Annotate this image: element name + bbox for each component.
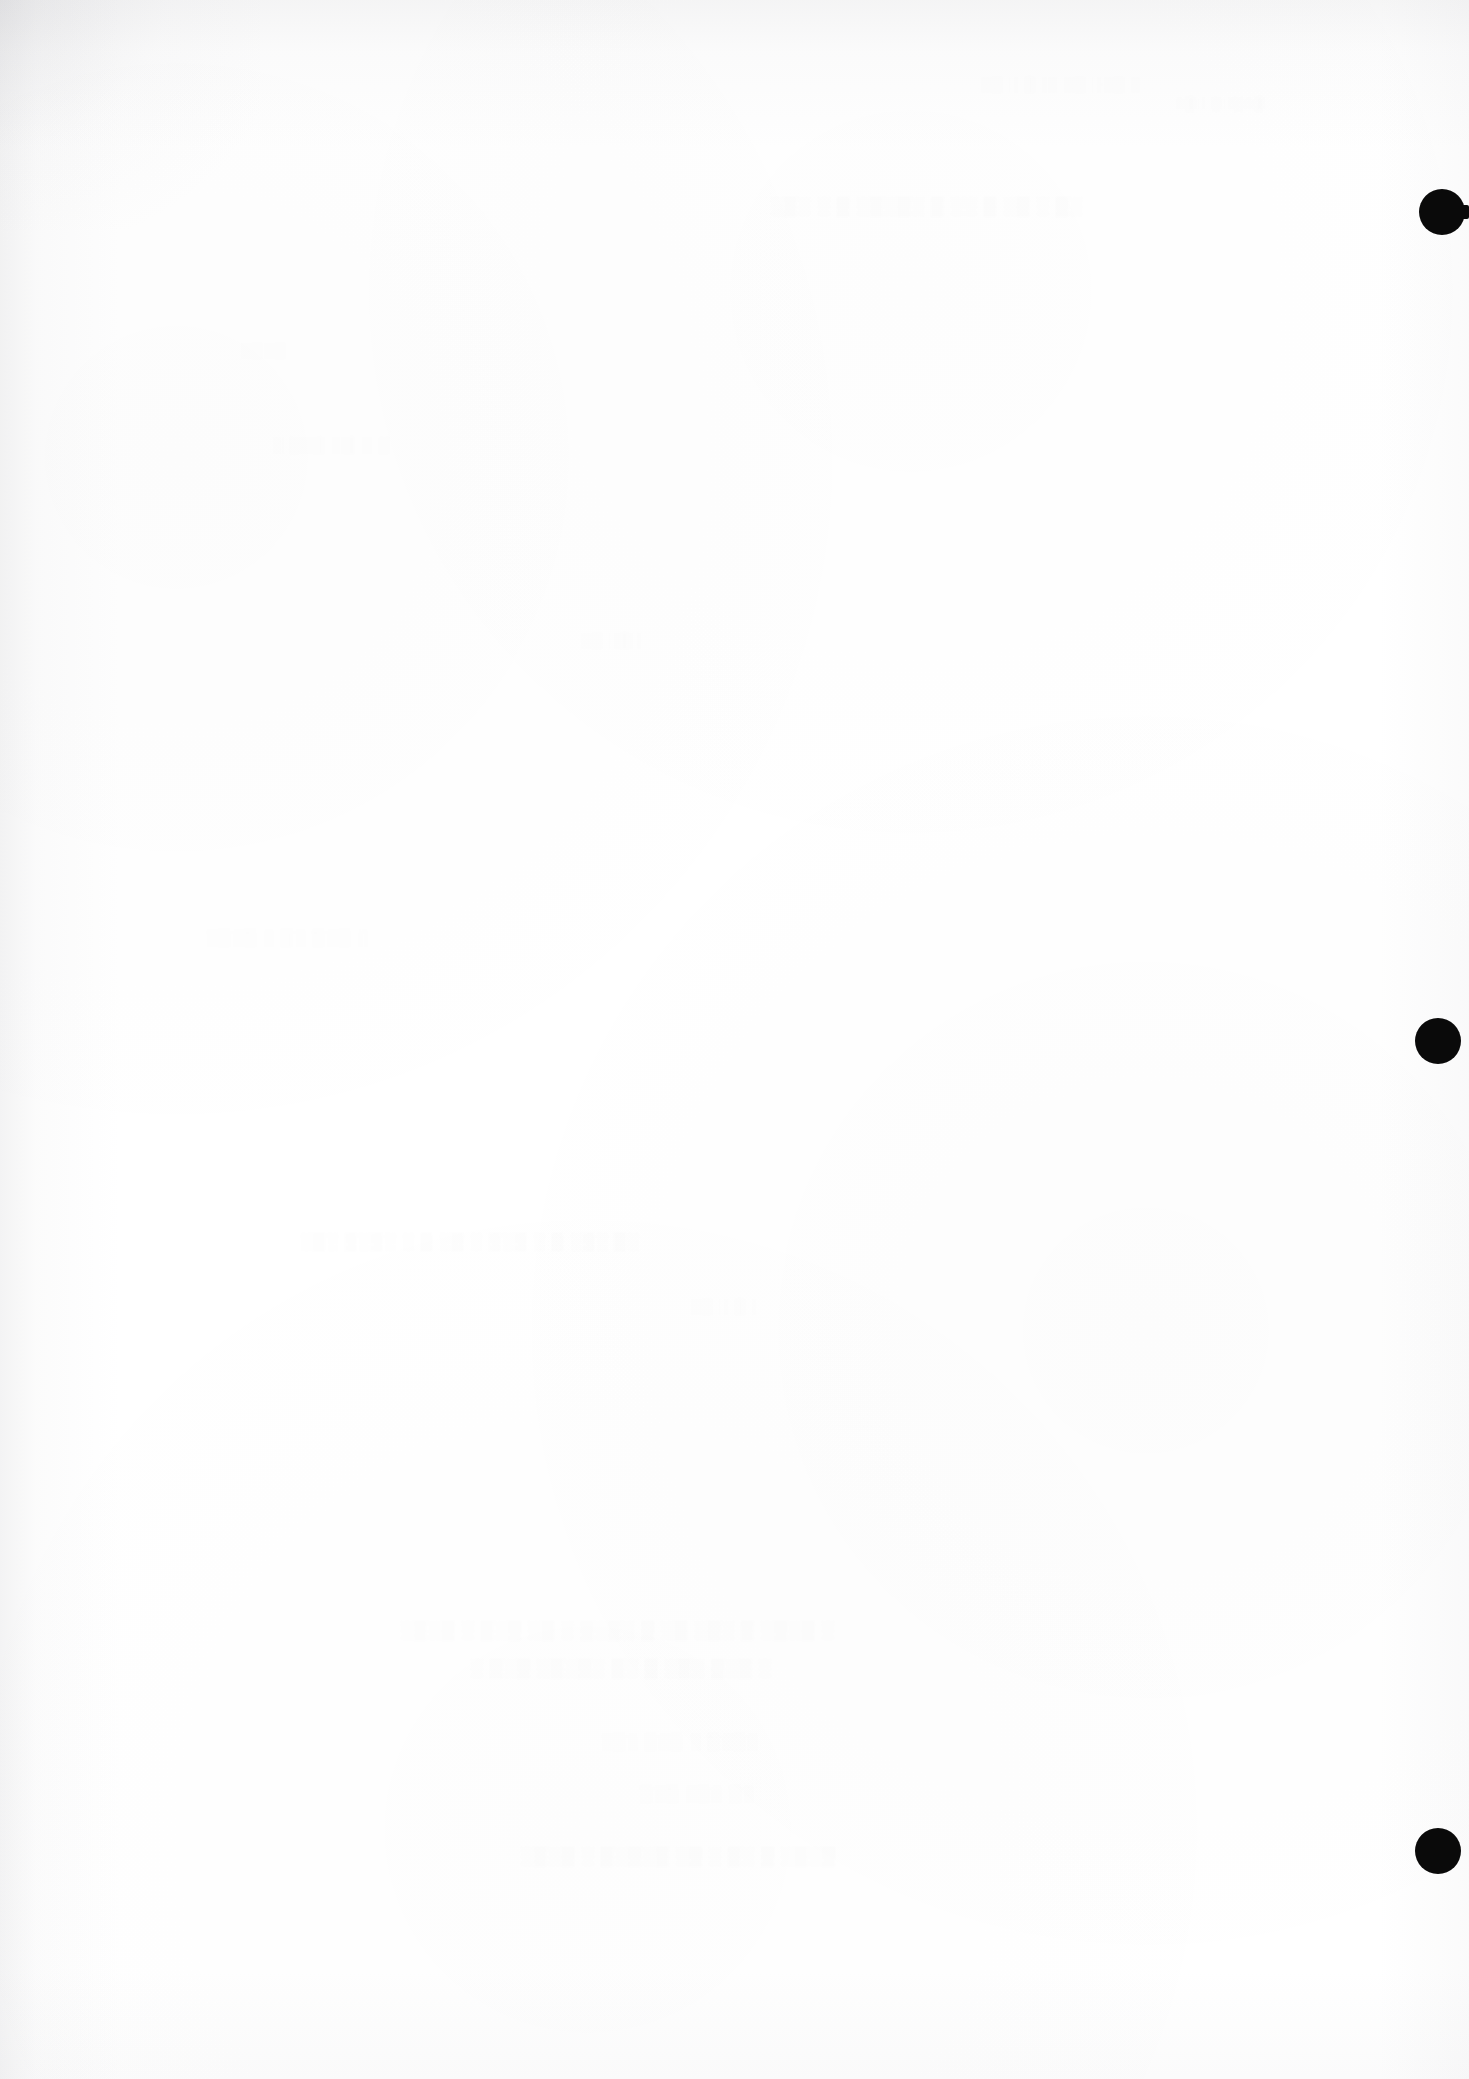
ghost-band-14: ░▒░▒ ░ ▒░▒░▒ ░▒ ░ ▒░ ▒ ░▒░▒ xyxy=(520,1846,1240,1867)
ghost-band-8: ░▒░ ▒░▒░ ░ ▒ ░▒ ░ ▒░▒ ░ ▒ ░▒░ ▒░ xyxy=(300,1232,1060,1252)
scan-edge-shadow-left xyxy=(0,0,120,2079)
scanned-page: ░▒ ░ ▒░░ ░▒ ░░▒ ░░▒░ ▒░▒░▒░▒░ ░ ▒ ░▒░▒░ … xyxy=(0,0,1469,2079)
ghost-band-1: ░▒ ░ ▒░░ ░▒ ░░▒ ░ xyxy=(980,76,1400,93)
register-dot-top-tail xyxy=(1461,205,1469,219)
scan-edge-shadow-corner xyxy=(0,0,260,230)
register-dot-bottom xyxy=(1415,1828,1461,1874)
scan-edge-shadow-bottom xyxy=(0,1969,1469,2079)
ghost-band-7: ░▒░▒ ░ ▒░ ▒░▒ ░ xyxy=(205,928,605,948)
ghost-band-4: ░▒░▒ xyxy=(240,342,370,359)
ghost-band-12: ░▒░ ▒░▒ ░ ▒░▒░ xyxy=(600,1732,1030,1752)
ghost-band-3: ░▒░ ░ ▒ ░▒░▒░ ▒ ░░ ▒ ░▒ ░ ▒░ xyxy=(770,196,1330,217)
ghost-band-10: ░▒░▒ ░ ▒░▒ ░▒ ░ ▒░▒░ ▒ ░▒ ░▒░ ▒ ░▒░▒ ░ xyxy=(400,1620,1260,1641)
ghost-band-9: ░▒ ░ ▒░ xyxy=(690,1298,950,1315)
ghost-band-5: ░ ▒░▒ ░▒ ░ ▒ xyxy=(272,436,572,454)
ghost-band-13: ▒░▒ ░▒░ ▒░ xyxy=(640,1784,970,1804)
register-dot-top xyxy=(1419,189,1465,235)
ghost-band-6: ░▒ ░▒░ xyxy=(580,632,740,649)
ghost-band-2: ░▒░ ▒░▒░▒ xyxy=(1175,96,1375,112)
ghost-band-11: ░ ▒░▒ ░▒░▒░ ▒░ ▒ ░▒░ ▒░▒ ░ xyxy=(470,1658,1170,1679)
scan-edge-shadow-top xyxy=(0,0,1469,150)
register-dot-middle xyxy=(1415,1018,1461,1064)
